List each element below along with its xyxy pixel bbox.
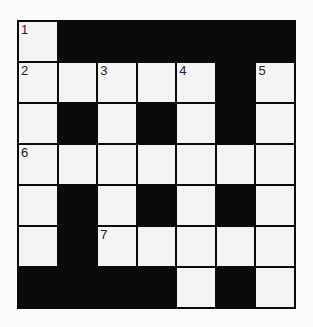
- clue-number: 1: [21, 23, 28, 36]
- black-square: [256, 22, 294, 61]
- crossword-cell[interactable]: [177, 227, 215, 266]
- crossword-cell[interactable]: 7: [98, 227, 136, 266]
- black-square: [138, 104, 176, 143]
- black-square: [217, 186, 255, 225]
- crossword-cell[interactable]: [177, 268, 215, 307]
- crossword-cell[interactable]: [98, 186, 136, 225]
- black-square: [138, 186, 176, 225]
- crossword-cell[interactable]: [138, 63, 176, 102]
- clue-number: 6: [21, 146, 28, 159]
- black-square: [138, 22, 176, 61]
- black-square: [217, 268, 255, 307]
- crossword-cell[interactable]: [177, 186, 215, 225]
- clue-number: 4: [179, 64, 186, 77]
- crossword-cell[interactable]: [19, 186, 57, 225]
- black-square: [19, 268, 57, 307]
- crossword-cell[interactable]: [217, 227, 255, 266]
- crossword-cell[interactable]: [256, 145, 294, 184]
- black-square: [59, 227, 97, 266]
- crossword-cell[interactable]: [256, 268, 294, 307]
- crossword-cell[interactable]: [98, 104, 136, 143]
- black-square: [217, 104, 255, 143]
- black-square: [217, 63, 255, 102]
- black-square: [177, 22, 215, 61]
- crossword-cell[interactable]: [217, 145, 255, 184]
- crossword-cell[interactable]: 1: [19, 22, 57, 61]
- black-square: [59, 22, 97, 61]
- black-square: [59, 186, 97, 225]
- crossword-cell[interactable]: [177, 104, 215, 143]
- black-square: [59, 268, 97, 307]
- clue-number: 5: [258, 64, 265, 77]
- crossword-cell[interactable]: [138, 145, 176, 184]
- clue-number: 3: [100, 64, 107, 77]
- black-square: [217, 22, 255, 61]
- crossword-cell[interactable]: 3: [98, 63, 136, 102]
- black-square: [98, 268, 136, 307]
- black-square: [98, 22, 136, 61]
- black-square: [59, 104, 97, 143]
- crossword-cell[interactable]: [19, 104, 57, 143]
- crossword-cell[interactable]: [59, 145, 97, 184]
- crossword-cell[interactable]: [256, 227, 294, 266]
- clue-number: 7: [100, 228, 107, 241]
- crossword-cell[interactable]: [177, 145, 215, 184]
- clue-number: 2: [21, 64, 28, 77]
- crossword-cell[interactable]: 5: [256, 63, 294, 102]
- black-square: [138, 268, 176, 307]
- crossword-cell[interactable]: [19, 227, 57, 266]
- crossword-grid: 1234567: [17, 20, 296, 309]
- crossword-cell[interactable]: 6: [19, 145, 57, 184]
- crossword-cell[interactable]: [98, 145, 136, 184]
- crossword-cell[interactable]: [59, 63, 97, 102]
- crossword-cell[interactable]: [256, 186, 294, 225]
- crossword-cell[interactable]: [138, 227, 176, 266]
- crossword-cell[interactable]: 2: [19, 63, 57, 102]
- crossword-cell[interactable]: [256, 104, 294, 143]
- crossword-cell[interactable]: 4: [177, 63, 215, 102]
